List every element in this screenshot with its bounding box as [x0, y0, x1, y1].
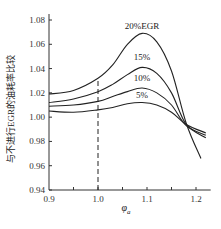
series-label: 20%EGR: [125, 21, 160, 31]
series-line-20pctegr: [49, 33, 201, 158]
x-tick-label: 0.9: [43, 194, 55, 204]
x-tick-label: 1.0: [92, 194, 104, 204]
y-tick-label: 1.02: [29, 88, 45, 98]
y-tick-label: 1.06: [29, 39, 45, 49]
y-tick-label: 1.04: [29, 64, 45, 74]
series-label: 5%: [136, 90, 149, 100]
y-tick-label: 1.08: [29, 15, 45, 25]
x-axis-label: φa: [121, 202, 131, 216]
chart: 0.940.960.981.001.021.041.061.08 0.91.01…: [0, 0, 221, 229]
x-axis-label-subscript: a: [127, 208, 131, 216]
x-tick-label: 1.1: [141, 194, 152, 204]
y-tick-label: 0.98: [29, 136, 45, 146]
axes: [49, 14, 211, 190]
y-tick-label: 0.96: [29, 161, 45, 171]
series-label: 10%: [134, 73, 151, 83]
series-label: 15%: [134, 52, 151, 62]
x-tick-label: 1.2: [190, 194, 201, 204]
series-line-15pct: [49, 67, 206, 137]
y-axis-label: 与不进行EGR的油耗率比较: [5, 55, 16, 163]
y-tick-label: 1.00: [29, 112, 45, 122]
series-group: [49, 33, 206, 158]
